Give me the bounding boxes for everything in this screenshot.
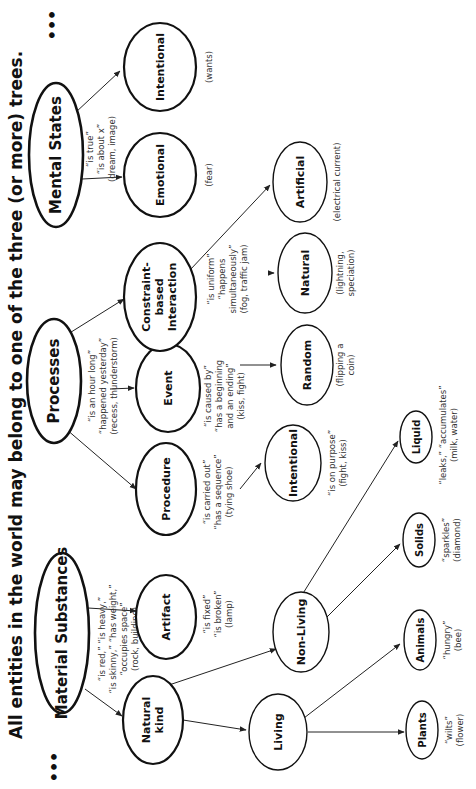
node-plants: Plants “wilts” (flower): [406, 701, 465, 759]
svg-text:“is fixed”: “is fixed”: [202, 594, 212, 633]
svg-text:“is red,” “is heavy,”: “is red,” “is heavy,”: [97, 597, 107, 682]
svg-text:(dream, image): (dream, image): [107, 116, 117, 182]
svg-text:Living: Living: [272, 713, 285, 750]
svg-text:“is broken”: “is broken”: [213, 591, 223, 638]
svg-text:“is carried out”: “is carried out”: [202, 460, 212, 525]
svg-text:(bee): (bee): [453, 629, 463, 652]
svg-text:Constraint-: Constraint-: [140, 262, 153, 332]
svg-text:(diamond): (diamond): [452, 518, 462, 562]
svg-text:Solids: Solids: [414, 523, 425, 557]
svg-text:(lightning,: (lightning,: [335, 251, 345, 294]
node-non-living: Non-Living: [273, 592, 329, 672]
svg-text:“is true”: “is true”: [85, 131, 95, 167]
svg-text:“hungry”: “hungry”: [442, 621, 452, 660]
edge-non-living-to-solids: [325, 544, 400, 619]
node-random: Random (flipping a coin): [281, 325, 356, 405]
node-event: Event “is caused by” “has a beginning an…: [136, 344, 246, 432]
svg-text:“is uniform”: “is uniform”: [206, 253, 216, 304]
svg-text:Plants: Plants: [417, 712, 428, 747]
svg-text:simultaneously”: simultaneously”: [228, 245, 238, 314]
svg-text:Event: Event: [162, 370, 175, 405]
edge-natural-kind-to-non-living: [166, 649, 276, 686]
svg-text:(wants): (wants): [204, 51, 214, 83]
svg-text:Procedure: Procedure: [160, 457, 173, 521]
root-material-substances: Material Substances: [35, 547, 89, 720]
root-label: Mental States: [47, 96, 65, 214]
svg-text:(lamp): (lamp): [224, 600, 234, 628]
svg-text:Intentional: Intentional: [287, 429, 300, 497]
svg-text:Natural: Natural: [299, 250, 312, 296]
edge-mental-to-intentional: [75, 71, 120, 113]
svg-text:“is an hour long”: “is an hour long”: [87, 350, 97, 422]
svg-text:Random: Random: [301, 340, 314, 391]
node-constraint-based-interaction: Constraint- based Interaction “is unifor…: [124, 243, 249, 351]
svg-text:based: based: [153, 278, 166, 315]
svg-text:“sparkles”: “sparkles”: [441, 518, 451, 562]
more-trees-left-ellipsis: •••: [45, 752, 64, 783]
svg-text:“has a sequence”: “has a sequence”: [213, 454, 223, 529]
node-solids: Solids “sparkles” (diamond): [403, 513, 462, 567]
node-animals: Animals “hungry” (bee): [404, 610, 463, 670]
svg-text:(flower): (flower): [455, 714, 465, 747]
edge-processes-to-procedure: [66, 429, 136, 489]
ontology-diagram: All entities in the world may belong to …: [0, 0, 476, 789]
edge-processes-to-constraint: [68, 299, 124, 334]
svg-text:(fight, kiss): (fight, kiss): [338, 439, 348, 487]
svg-text:Natural: Natural: [140, 697, 153, 743]
svg-text:“is skinny,” “has weight,”: “is skinny,” “has weight,”: [108, 584, 118, 693]
node-natural: Natural (lightning, speciation): [278, 233, 356, 313]
svg-text:“is on purpose”: “is on purpose”: [327, 430, 337, 496]
svg-text:(fear): (fear): [204, 163, 214, 187]
edge-event-to-intentional: [240, 463, 261, 489]
svg-text:Artificial: Artificial: [294, 156, 307, 209]
svg-text:Emotional: Emotional: [154, 144, 167, 206]
root-label: Processes: [45, 339, 63, 424]
svg-text:Non-Living: Non-Living: [295, 599, 308, 666]
node-living: Living: [249, 694, 307, 770]
processes-annotations: “is an hour long” “happened yesterday” (…: [87, 337, 119, 435]
svg-text:“happened yesterday”: “happened yesterday”: [98, 338, 108, 434]
svg-text:“leaks,” “accumulates”: “leaks,” “accumulates”: [438, 385, 448, 484]
svg-text:(tying shoe): (tying shoe): [224, 466, 234, 517]
svg-text:coin): coin): [346, 355, 356, 376]
svg-text:kind: kind: [153, 707, 166, 734]
svg-text:(milk, water): (milk, water): [449, 408, 459, 462]
node-liquid: Liquid “leaks,” “accumulates” (milk, wat…: [400, 385, 459, 484]
mental-annotations: “is true” “is about x” (dream, image): [85, 116, 117, 182]
node-artificial: Artificial (electrical current): [273, 142, 342, 222]
svg-text:Liquid: Liquid: [411, 420, 422, 455]
root-processes: Processes: [27, 319, 81, 443]
node-intentional-event: Intentional “is on purpose” (fight, kiss…: [265, 425, 348, 501]
root-mental-states: Mental States: [29, 83, 83, 227]
svg-text:(flipping a: (flipping a: [335, 344, 345, 387]
svg-text:“wilts”: “wilts”: [444, 716, 454, 744]
svg-text:speciation): speciation): [346, 250, 356, 297]
more-trees-right-ellipsis: •••: [43, 10, 62, 41]
svg-text:(electrical current): (electrical current): [332, 143, 342, 222]
root-label: Material Substances: [53, 547, 71, 720]
edge-natural-kind-to-living: [183, 720, 246, 730]
node-procedure: Procedure “is carried out” “has a sequen…: [136, 443, 234, 535]
node-emotional: Emotional (fear): [124, 133, 214, 217]
svg-text:(recess, thunderstorm): (recess, thunderstorm): [109, 337, 119, 435]
svg-text:“occupies space”: “occupies space”: [119, 602, 129, 675]
node-intentional-mental: Intentional (wants): [124, 23, 214, 111]
node-natural-kind: Natural kind: [123, 676, 183, 764]
material-annotations: “is red,” “is heavy,” “is skinny,” “has …: [97, 584, 140, 693]
svg-text:“happens: “happens: [217, 258, 227, 299]
node-artifact: Artifact “is fixed” “is broken” (lamp): [136, 575, 234, 659]
diagram-title: All entities in the world may belong to …: [6, 51, 26, 739]
svg-text:and an ending”: and an ending”: [225, 363, 235, 429]
svg-text:“has a beginning: “has a beginning: [214, 360, 224, 432]
svg-text:(kiss, fight): (kiss, fight): [236, 372, 246, 420]
svg-text:“is caused by”: “is caused by”: [203, 365, 213, 427]
svg-text:“is about x”: “is about x”: [96, 124, 106, 175]
svg-text:Animals: Animals: [415, 618, 426, 663]
svg-text:Interaction: Interaction: [166, 263, 179, 331]
svg-text:(fog, traffic jam): (fog, traffic jam): [239, 244, 249, 313]
svg-text:Artifact: Artifact: [160, 594, 173, 641]
svg-text:Intentional: Intentional: [154, 33, 167, 101]
